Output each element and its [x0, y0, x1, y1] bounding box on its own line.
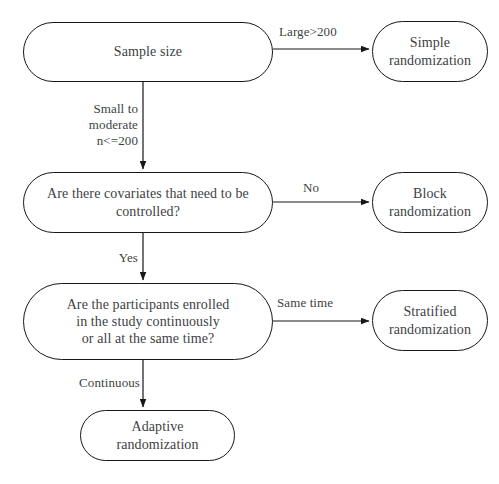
node-sample-size[interactable]: Sample size — [23, 22, 273, 82]
node-adaptive-randomization[interactable]: Adaptive randomization — [80, 410, 235, 461]
node-block-randomization[interactable]: Block randomization — [372, 172, 488, 233]
node-covariates-question[interactable]: Are there covariates that need to be con… — [23, 172, 273, 233]
node-label-simple-randomization: Simple randomization — [381, 34, 479, 68]
edge-label-edge-no: No — [303, 180, 341, 196]
node-stratified-randomization[interactable]: Stratified randomization — [372, 290, 488, 351]
node-label-adaptive-randomization: Adaptive randomization — [108, 418, 206, 452]
edge-label-edge-same-time: Same time — [277, 295, 357, 311]
flowchart-canvas: Sample sizeSimple randomizationAre there… — [0, 0, 499, 484]
node-enrollment-question[interactable]: Are the participants enrolled in the stu… — [23, 283, 273, 360]
edge-label-edge-large: Large>200 — [279, 24, 363, 40]
edge-label-edge-small-moderate: Small to moderate n<=200 — [60, 101, 138, 149]
edge-label-edge-continuous: Continuous — [60, 375, 140, 391]
node-label-enrollment-question: Are the participants enrolled in the stu… — [59, 296, 238, 347]
node-simple-randomization[interactable]: Simple randomization — [372, 21, 488, 82]
node-label-covariates-question: Are there covariates that need to be con… — [39, 185, 257, 219]
node-label-block-randomization: Block randomization — [381, 185, 479, 219]
node-label-sample-size: Sample size — [106, 43, 190, 60]
edge-label-edge-yes: Yes — [104, 250, 138, 266]
node-label-stratified-randomization: Stratified randomization — [381, 303, 479, 337]
